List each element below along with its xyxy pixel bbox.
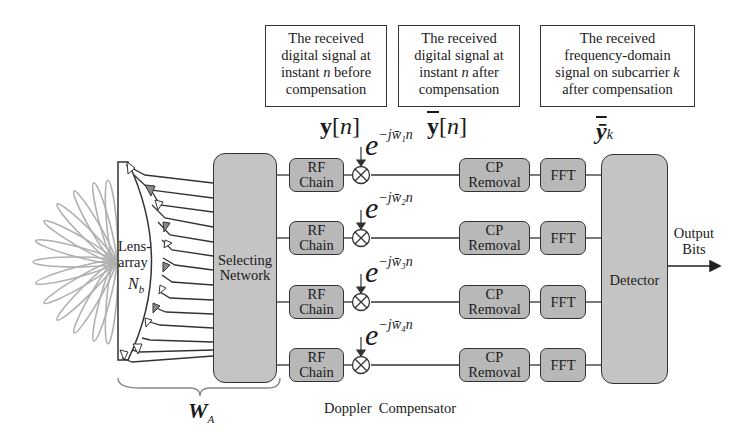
output-bits-label: Output Bits bbox=[669, 225, 719, 257]
selecting-network-label-1: Selecting bbox=[218, 253, 272, 268]
annotation-line: digital signal at bbox=[399, 47, 519, 64]
annotation-line: digital signal at bbox=[266, 47, 386, 64]
rf-chain-block-3: RFChain bbox=[289, 285, 344, 319]
annotation-line: frequency-domain bbox=[541, 47, 694, 64]
annotation-frequency-domain: The received frequency-domain signal on … bbox=[540, 25, 695, 107]
cp-removal-block-2: CPRemoval bbox=[459, 221, 530, 255]
rf-chain-block-4: RFChain bbox=[289, 348, 344, 382]
selecting-network-block: Selecting Network bbox=[213, 153, 277, 383]
exponent-label-4: e−jw̄₄n bbox=[365, 318, 413, 352]
annotation-line: after compensation bbox=[541, 81, 694, 98]
doppler-compensator-label: Doppler Compensator bbox=[320, 400, 460, 416]
annotation-line: compensation bbox=[399, 81, 519, 98]
beam-pattern-icon bbox=[33, 180, 120, 344]
cp-removal-block-1: CPRemoval bbox=[459, 158, 530, 192]
lens-label-line2: array bbox=[118, 254, 162, 270]
rf-chain-block-1: RFChain bbox=[289, 158, 344, 192]
detector-label: Detector bbox=[610, 273, 660, 288]
fft-block-2: FFT bbox=[540, 221, 586, 255]
annotation-after-compensation: The received digital signal at instant n… bbox=[398, 25, 520, 107]
selecting-network-label-2: Network bbox=[218, 268, 272, 283]
ybar-symbol: ȳ bbox=[596, 118, 607, 144]
output-label-2: Bits bbox=[669, 241, 719, 257]
annotation-line: signal on subcarrier k bbox=[541, 64, 694, 81]
exponent-label-3: e−jw̄₃n bbox=[365, 255, 413, 289]
lens-label-line1: Lens- bbox=[118, 238, 162, 254]
fft-block-4: FFT bbox=[540, 348, 586, 382]
output-label-1: Output bbox=[669, 225, 719, 241]
exponent-label-1: e−jw̄₁n bbox=[365, 128, 413, 162]
annotation-line: compensation bbox=[266, 81, 386, 98]
annotation-line: instant n after bbox=[399, 64, 519, 81]
fft-block-3: FFT bbox=[540, 285, 586, 319]
ybar-subscript: k bbox=[607, 127, 613, 142]
annotation-line: The received bbox=[541, 30, 694, 47]
symbol-ybar-k: ȳk bbox=[596, 118, 613, 145]
fft-block-1: FFT bbox=[540, 158, 586, 192]
symbol-W-A: WA bbox=[188, 398, 214, 425]
lens-array-label: Lens- array Nb bbox=[118, 238, 162, 297]
symbol-ybar-n: y[n] bbox=[427, 113, 467, 140]
rf-chain-block-2: RFChain bbox=[289, 221, 344, 255]
annotation-line: instant n before bbox=[266, 64, 386, 81]
lens-N-b: Nb bbox=[118, 276, 162, 297]
exponent-label-2: e−jw̄₂n bbox=[365, 191, 413, 225]
annotation-line: The received bbox=[399, 30, 519, 47]
detector-block: Detector bbox=[601, 154, 668, 384]
cp-removal-block-4: CPRemoval bbox=[459, 348, 530, 382]
annotation-line: The received bbox=[266, 30, 386, 47]
cp-removal-block-3: CPRemoval bbox=[459, 285, 530, 319]
symbol-y-n: y[n] bbox=[320, 113, 360, 140]
annotation-before-compensation: The received digital signal at instant n… bbox=[265, 25, 387, 107]
